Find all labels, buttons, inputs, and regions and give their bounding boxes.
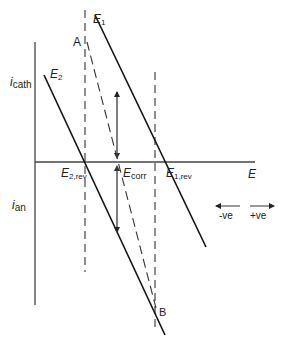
e1-polarization-line [95,15,206,247]
point-a-label: A [73,35,81,49]
e2-polarization-line [44,75,165,335]
e2rev-label: E2,rev [61,166,87,181]
positive-direction-label: +ve [250,210,267,221]
corrosion-potential-diagram: icath ian E E1 E2 A B E2,rev Ecorr E1,re… [0,0,288,350]
point-b-label: B [159,306,166,318]
e1rev-label: E1,rev [166,166,192,181]
i-cath-label: icath [10,75,32,90]
e-axis-label: E [248,167,257,181]
negative-direction-label: -ve [219,210,233,221]
ecorr-label: Ecorr [123,166,147,181]
e1-label: E1 [93,12,106,27]
e2-label: E2 [50,67,63,82]
i-an-label: ian [12,198,26,213]
